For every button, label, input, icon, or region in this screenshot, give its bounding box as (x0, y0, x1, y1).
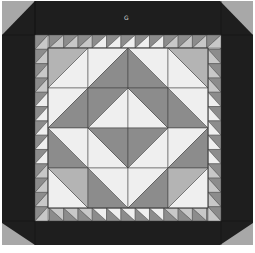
block-label: G (124, 14, 129, 21)
quilt-pattern (0, 0, 255, 253)
